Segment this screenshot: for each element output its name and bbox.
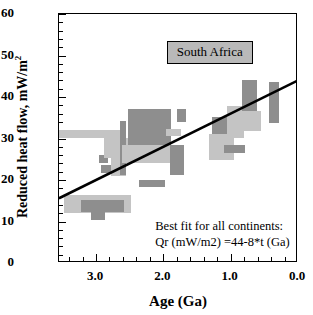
best-fit-annotation: Best fit for all continents: Qr (mW/m2) … — [155, 219, 289, 250]
region-legend-label: South Africa — [167, 41, 253, 64]
annotation-line-2: Qr (mW/m2) =44-8*t (Ga) — [155, 235, 289, 250]
x-tick-label: 0.0 — [275, 268, 313, 284]
y-tick-label: 20 — [0, 171, 14, 187]
x-tick-label: 3.0 — [73, 268, 117, 284]
x-tick-label: 1.0 — [208, 268, 252, 284]
y-axis-title: Reduced heat flow, mW/m2 — [13, 7, 31, 267]
y-tick-label: 10 — [0, 213, 14, 229]
y-tick-label: 60 — [0, 5, 14, 21]
y-tick-label: 40 — [0, 88, 14, 104]
y-tick-label: 30 — [0, 130, 14, 146]
y-tick-label: 50 — [0, 47, 14, 63]
x-axis-title: Age (Ga) — [58, 293, 298, 310]
x-tick-label: 2.0 — [140, 268, 184, 284]
annotation-line-1: Best fit for all continents: — [155, 219, 289, 234]
y-tick-label: 0 — [0, 254, 14, 270]
y-axis-title-text: Reduced heat flow, mW/m — [15, 60, 30, 218]
y-axis-title-superscript: 2 — [13, 56, 23, 61]
heat-flow-scatter-figure: Reduced heat flow, mW/m2 Age (Ga) 010203… — [0, 0, 313, 315]
plot-area: South Africa Best fit for all continents… — [58, 13, 297, 262]
